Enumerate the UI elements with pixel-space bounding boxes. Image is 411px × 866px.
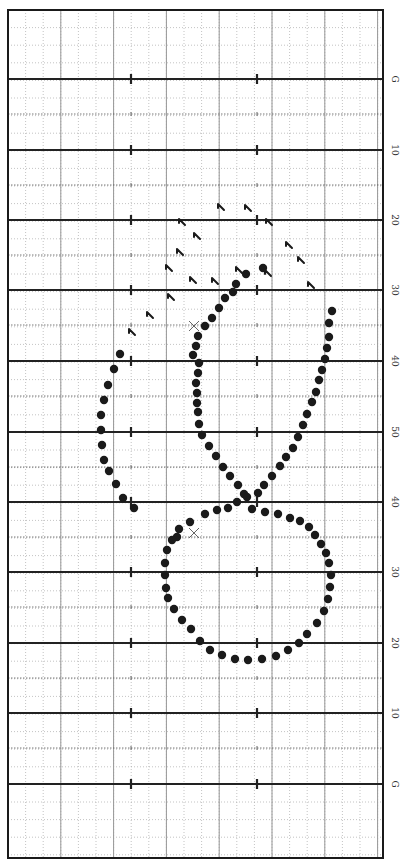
performer-dot [201, 322, 209, 330]
performer-dot [313, 619, 321, 627]
performer-dot [119, 494, 127, 502]
performer-dot [321, 355, 329, 363]
performer-dot [261, 508, 269, 516]
performer-dot [178, 616, 186, 624]
step-flag-icon [166, 265, 172, 271]
performer-dot [112, 480, 120, 488]
performer-dot [192, 342, 200, 350]
field-border [8, 10, 383, 858]
yard-label: 50 [390, 426, 400, 438]
performer-dots [97, 264, 336, 664]
performer-dot [186, 518, 194, 526]
performer-dot [224, 504, 232, 512]
yard-labels: G102030405040302010G [390, 75, 400, 787]
performer-dot [194, 408, 202, 416]
performer-dot [215, 304, 223, 312]
performer-dot [259, 264, 267, 272]
performer-dot [276, 462, 284, 470]
performer-dot [308, 398, 316, 406]
x-mark-icon [189, 528, 199, 538]
step-flag-icon [212, 278, 218, 284]
performer-dot [226, 472, 234, 480]
step-flag-icon [129, 329, 135, 335]
performer-dot [163, 546, 171, 554]
performer-dot [193, 399, 201, 407]
performer-dot [100, 396, 108, 404]
performer-dot [229, 288, 237, 296]
performer-dot [286, 514, 294, 522]
performer-dot [206, 646, 214, 654]
step-flag-icon [147, 312, 153, 318]
performer-dot [296, 517, 304, 525]
performer-dot [97, 411, 105, 419]
performer-dot [258, 655, 266, 663]
performer-dot [268, 472, 276, 480]
performer-dot [248, 505, 256, 513]
performer-dot [318, 366, 326, 374]
performer-dot [323, 344, 331, 352]
performer-dot [193, 389, 201, 397]
performer-dot [116, 350, 124, 358]
performer-dot [254, 489, 262, 497]
performer-dot [324, 595, 332, 603]
performer-dot [305, 523, 313, 531]
performer-dot [189, 351, 197, 359]
x-mark-icon [189, 321, 199, 331]
performer-dot [100, 456, 108, 464]
performer-dot [213, 506, 221, 514]
performer-dot [233, 498, 241, 506]
performer-dot [218, 651, 226, 659]
performer-dot [98, 441, 106, 449]
performer-dot [161, 571, 169, 579]
step-flag-icon [177, 249, 183, 255]
performer-dot [196, 637, 204, 645]
performer-dot [295, 639, 303, 647]
performer-dot [205, 442, 213, 450]
performer-dot [325, 333, 333, 341]
performer-dot [164, 594, 172, 602]
performer-dot [208, 314, 216, 322]
yard-label: 20 [390, 214, 400, 226]
performer-dot [260, 481, 268, 489]
minor-grid [8, 10, 383, 858]
performer-dot [195, 420, 203, 428]
performer-dot [244, 656, 252, 664]
yard-label: 30 [390, 566, 400, 578]
performer-dot [194, 332, 202, 340]
yard-label: 30 [390, 284, 400, 296]
step-flag-icon [168, 294, 174, 300]
performer-dot [243, 493, 251, 501]
performer-dot [312, 388, 320, 396]
performer-dot [162, 584, 170, 592]
performer-dot [272, 652, 280, 660]
performer-dot [170, 605, 178, 613]
performer-dot [289, 444, 297, 452]
performer-dot [198, 431, 206, 439]
yard-label: 10 [390, 144, 400, 156]
performer-dot [187, 625, 195, 633]
performer-dot [104, 381, 112, 389]
performer-dot [97, 426, 105, 434]
performer-dot [234, 481, 242, 489]
performer-dot [325, 559, 333, 567]
performer-dot [110, 365, 118, 373]
yard-label: 10 [390, 707, 400, 719]
performer-dot [212, 452, 220, 460]
performer-dot [303, 410, 311, 418]
step-flag-icon [190, 277, 196, 283]
performer-dot [326, 583, 334, 591]
step-flag-icon [298, 257, 304, 263]
step-flag-icon [308, 282, 314, 288]
performer-dot [219, 463, 227, 471]
performer-dot [327, 571, 335, 579]
performer-dot [175, 525, 183, 533]
performer-dot [194, 369, 202, 377]
performer-dot [242, 270, 250, 278]
yard-label: 40 [390, 496, 400, 508]
performer-dot [311, 531, 319, 539]
performer-dot [161, 559, 169, 567]
performer-dot [192, 379, 200, 387]
performer-dot [232, 280, 240, 288]
performer-dot [168, 536, 176, 544]
step-flag-icon [245, 205, 251, 211]
